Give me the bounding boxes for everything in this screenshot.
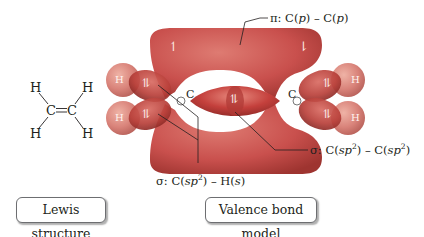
electron-up-arrow-icon: ↿ xyxy=(168,39,179,54)
sigma-text: C( xyxy=(171,174,184,188)
electron-pair-icon: ⥮ xyxy=(322,76,332,90)
sigma-prefix: σ: xyxy=(156,174,168,188)
sigma-text: ) – C( xyxy=(357,143,388,157)
sigma-orbital-type: sp xyxy=(388,143,401,157)
hydrogen-label-top-left: H xyxy=(115,74,124,85)
sigma-orbital-type: sp xyxy=(339,143,352,157)
electron-pair-icon: ⥮ xyxy=(322,107,332,121)
pi-text: ) xyxy=(344,11,349,25)
sigma-ch-annotation: σ: C(sp2) – H(s) xyxy=(156,175,245,188)
sigma-text: ) xyxy=(241,174,246,188)
sigma-text: ) xyxy=(406,143,411,157)
carbon-label-right: C xyxy=(288,88,296,101)
hydrogen-label-bottom-right: H xyxy=(351,112,360,123)
pi-orbital-type: p xyxy=(337,11,344,25)
pi-leader-line xyxy=(245,18,268,22)
sigma-cc-annotation: σ: C(sp2) – C(sp2) xyxy=(310,144,410,157)
carbon-label-left: C xyxy=(186,88,194,101)
sigma-text: C( xyxy=(325,143,338,157)
hydrogen-label-top-right: H xyxy=(351,74,360,85)
valence-bond-model-caption: Valence bond model xyxy=(205,197,317,223)
pi-text: ) – C( xyxy=(306,11,337,25)
electron-pair-icon: ⥮ xyxy=(229,92,239,106)
pi-bond-annotation: π: C(p) – C(p) xyxy=(270,12,348,25)
pi-orbital-type: p xyxy=(298,11,305,25)
electron-down-arrow-icon: ⇂ xyxy=(298,39,309,54)
sigma-text: ) – H( xyxy=(203,174,235,188)
sigma-prefix: σ: xyxy=(310,143,322,157)
lewis-bond-lines xyxy=(0,0,120,150)
sigma-orbital-type: sp xyxy=(185,174,198,188)
lewis-structure-caption: Lewis structure xyxy=(16,197,106,223)
hydrogen-label-bottom-left: H xyxy=(115,112,124,123)
pi-text: C( xyxy=(285,11,298,25)
electron-pair-icon: ⥮ xyxy=(141,107,151,121)
electron-pair-icon: ⥮ xyxy=(141,76,151,90)
pi-prefix: π: xyxy=(270,11,281,25)
